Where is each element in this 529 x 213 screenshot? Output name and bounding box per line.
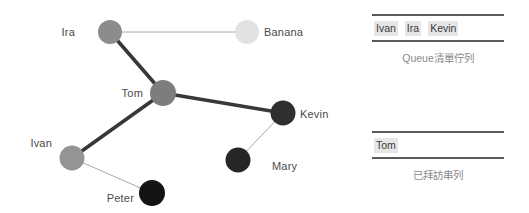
queue-caption: Queue清單佇列: [372, 50, 504, 65]
graph-node-label-banana: Banana: [264, 26, 303, 38]
queue-block: IvanIraKevin Queue清單佇列: [372, 14, 504, 65]
graph-panel: IraBananaTomKevinIvanMaryPeter: [0, 0, 340, 213]
graph-node-label-ivan: Ivan: [0, 137, 52, 149]
queue-bottom-rule: [372, 40, 504, 42]
graph-node-peter[interactable]: [139, 180, 165, 206]
queue-token-ira[interactable]: Ira: [405, 21, 421, 36]
visited-token-tom[interactable]: Tom: [374, 138, 398, 153]
graph-node-tom[interactable]: [150, 80, 176, 106]
queue-token-kevin[interactable]: Kevin: [428, 21, 458, 36]
screenshot-root: IraBananaTomKevinIvanMaryPeter IvanIraKe…: [0, 0, 529, 213]
graph-edge-ivan-peter[interactable]: [72, 158, 152, 193]
graph-node-mary[interactable]: [226, 148, 251, 173]
graph-edge-tom-ivan[interactable]: [72, 93, 163, 158]
graph-node-label-ira: Ira: [0, 26, 75, 38]
graph-node-ira[interactable]: [98, 20, 122, 44]
graph-node-label-tom: Tom: [0, 87, 143, 99]
graph-node-label-mary: Mary: [272, 160, 297, 172]
visited-block: Tom 已拜訪串列: [372, 131, 504, 182]
graph-node-label-peter: Peter: [0, 192, 134, 204]
graph-edge-tom-kevin[interactable]: [163, 93, 283, 113]
graph-node-kevin[interactable]: [271, 101, 296, 126]
visited-bottom-rule: [372, 157, 504, 159]
graph-node-label-kevin: Kevin: [300, 108, 329, 120]
visited-caption: 已拜訪串列: [372, 167, 504, 182]
side-panel: IvanIraKevin Queue清單佇列 Tom 已拜訪串列: [340, 0, 529, 213]
edge-layer: [72, 32, 283, 193]
queue-token-ivan[interactable]: Ivan: [374, 21, 398, 36]
visited-items[interactable]: Tom: [372, 133, 504, 157]
node-layer: [60, 20, 296, 206]
queue-items[interactable]: IvanIraKevin: [372, 16, 504, 40]
graph-node-banana[interactable]: [235, 20, 259, 44]
graph-node-ivan[interactable]: [60, 146, 85, 171]
